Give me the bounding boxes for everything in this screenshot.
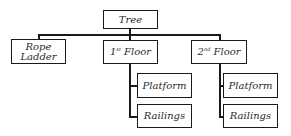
node-1st-railings-label: Railings [144,111,185,121]
node-tree-label: Tree [119,15,142,25]
node-tree: Tree [103,10,158,29]
node-1st-floor: 1st Floor [103,40,158,64]
floor-word: Floor [210,46,240,57]
node-1st-railings: Railings [137,104,192,128]
node-1st-floor-label: 1st Floor [110,47,151,57]
connector-1st-platform [129,85,137,87]
node-1st-platform-label: Platform [143,81,187,91]
node-1st-platform: Platform [137,73,192,98]
node-rope-ladder-line2: Ladder [20,52,56,62]
connector-1st-railings [129,116,137,118]
node-2nd-floor-label: 2nd Floor [198,47,241,57]
node-2nd-railings-label: Railings [230,111,271,121]
node-2nd-platform-label: Platform [229,81,273,91]
node-2nd-platform: Platform [223,73,278,98]
node-rope-ladder: Rope Ladder [11,39,66,64]
node-2nd-floor: 2nd Floor [191,40,247,64]
node-2nd-railings: Railings [223,104,278,128]
connector-1st-floor-down [129,63,131,118]
connector-2nd-floor-down [219,63,221,118]
node-rope-ladder-line1: Rope [26,42,52,52]
floor-word: Floor [121,46,151,57]
